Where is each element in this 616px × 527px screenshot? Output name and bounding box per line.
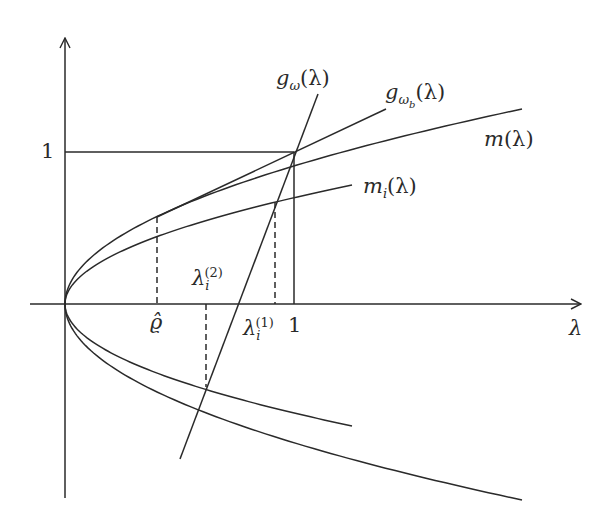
x-tick-1: 1 [288,315,301,336]
label-g-omega-base: g [276,66,289,90]
label-m-i-arg: (λ) [387,174,417,198]
label-m-i: mi(λ) [363,176,417,197]
x-axis-label: λ [569,318,582,339]
label-m-base: m [484,127,504,151]
x-tick-rho-hat: ϱ̂ [150,312,162,333]
label-g-omega-arg: (λ) [300,66,330,90]
label-g-omega-b-sub: ω [398,92,409,107]
label-lambda2-sub: i [205,278,209,293]
label-lambda1: λi(1) [243,318,274,339]
label-g-omega-sub: ω [289,78,300,93]
label-lambda2-sup: (2) [204,265,222,280]
label-g-omega: gω(λ) [276,68,330,89]
line-g-omega-b [157,109,386,217]
label-g-omega-b-arg: (λ) [415,80,445,104]
label-m-arg: (λ) [504,127,534,151]
label-m-i-base: m [363,174,383,198]
label-g-omega-b: gωb(λ) [385,82,445,105]
label-m: m(λ) [484,129,534,150]
label-g-omega-b-base: g [385,80,398,104]
label-lambda1-sub: i [256,328,260,343]
label-lambda1-sup: (1) [255,315,273,330]
label-lambda2: λi(2) [192,268,223,289]
y-tick-1: 1 [41,141,54,162]
